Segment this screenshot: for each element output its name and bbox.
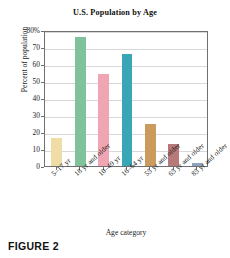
plot-area <box>45 32 207 166</box>
y-tick-label: 10 <box>14 146 40 153</box>
bar <box>75 37 86 166</box>
y-tick-label: 80% <box>14 27 40 34</box>
gridline <box>45 32 207 33</box>
y-tick-label: 30 <box>14 112 40 119</box>
y-tick-mark <box>41 99 44 100</box>
y-tick-label: 50 <box>14 78 40 85</box>
y-tick-label: 20 <box>14 129 40 136</box>
y-tick-mark <box>41 133 44 134</box>
x-axis-label: Age category <box>44 228 208 237</box>
figure-caption: FIGURE 2 <box>8 240 59 252</box>
plot-frame <box>44 31 208 167</box>
y-tick-mark <box>41 82 44 83</box>
y-tick-mark <box>41 167 44 168</box>
y-tick-mark <box>41 116 44 117</box>
y-tick-mark <box>41 65 44 66</box>
figure-container: U.S. Population by Age Percent of popula… <box>0 0 230 258</box>
y-tick-label: 70 <box>14 44 40 51</box>
bar <box>145 124 156 167</box>
y-tick-label: 40 <box>14 95 40 102</box>
y-tick-label: 60 <box>14 61 40 68</box>
y-tick-mark <box>41 48 44 49</box>
y-tick-label: 0 <box>14 163 40 170</box>
chart-title: U.S. Population by Age <box>0 8 230 17</box>
y-tick-mark <box>41 150 44 151</box>
y-tick-mark <box>41 31 44 32</box>
gridline <box>45 49 207 50</box>
bar <box>122 54 133 166</box>
